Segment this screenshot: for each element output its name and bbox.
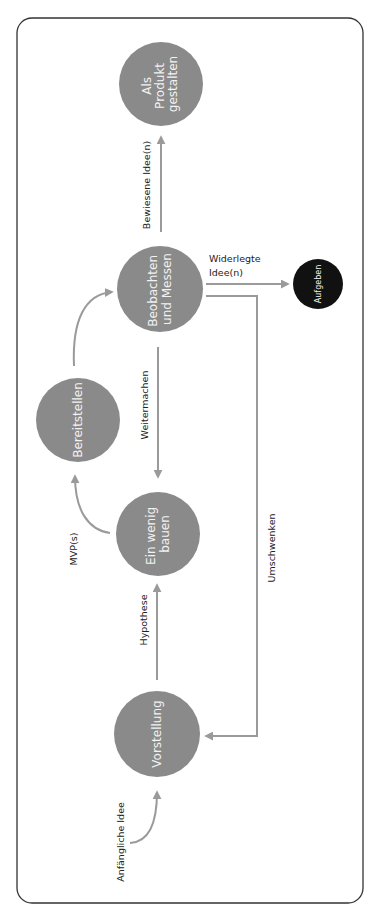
label-hypothese: Hypothese <box>138 594 149 645</box>
label-anfaengliche-idee: Anfängliche Idee <box>115 802 126 882</box>
node-bereitstellen: Bereitstellen <box>36 378 120 462</box>
node-ein-wenig-bauen: Ein wenig bauen <box>116 492 200 576</box>
node-beobachten-und-messen: Beobachten und Messen <box>117 246 203 332</box>
node-aufgeben: Aufgeben <box>293 259 343 309</box>
arrow-anfaengliche-idee <box>130 792 157 843</box>
label-umschwenken: Umschwenken <box>266 513 277 582</box>
node-als-produkt-gestalten: Als Produkt gestalten <box>119 42 203 126</box>
label-weitermachen: Weitermachen <box>139 371 150 440</box>
lean-startup-cycle-diagram: Als Produkt gestalten Beobachten und Mes… <box>0 0 372 918</box>
svg-text:Aufgeben: Aufgeben <box>314 265 323 303</box>
svg-text:Vorstellung: Vorstellung <box>150 700 164 767</box>
arrow-umschwenken <box>206 296 257 736</box>
node-vorstellung: Vorstellung <box>114 691 200 777</box>
label-mvps: MVP(s) <box>68 533 79 566</box>
svg-text:Bereitstellen: Bereitstellen <box>71 382 85 458</box>
label-bewiesene-idee: Bewiesene Idee(n) <box>141 141 152 229</box>
label-widerlegte-idee: Widerlegte Idee(n) <box>209 253 264 278</box>
arrow-mvps <box>75 476 110 533</box>
arrow-bereitstellen-to-beobachten <box>74 292 112 366</box>
svg-text:Beobachten und Messen: Beobachten und Messen <box>146 251 174 327</box>
